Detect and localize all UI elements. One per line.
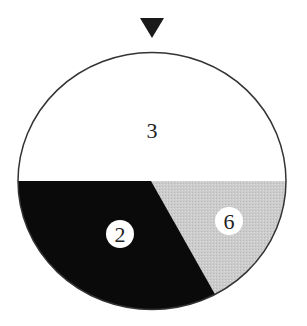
section-top <box>0 40 307 181</box>
section-label-bottom-right: 6 <box>224 209 235 234</box>
spinner-diagram: 3 2 6 <box>0 0 307 326</box>
section-label-bottom-left: 2 <box>115 222 126 247</box>
pointer-triangle-icon <box>140 18 164 38</box>
section-label-top: 3 <box>147 118 158 143</box>
